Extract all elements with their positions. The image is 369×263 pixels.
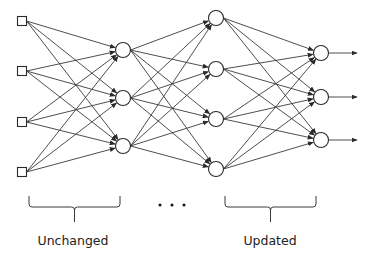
connection-edge — [131, 146, 209, 167]
output-node-circle — [314, 90, 329, 105]
hidden-1-node-circle — [116, 43, 131, 58]
input-node-square — [18, 17, 27, 26]
output-arrows — [329, 53, 358, 140]
hidden-1-node-circle — [116, 139, 131, 154]
connection-edge — [27, 21, 116, 48]
hidden-2-node-circle — [209, 162, 224, 177]
hidden-1-node-circle — [116, 91, 131, 106]
connection-edge — [131, 50, 210, 114]
ellipsis-dot — [171, 204, 174, 207]
ellipsis-dot — [183, 204, 186, 207]
connection-edge — [27, 21, 119, 140]
hidden-2-node-circle — [209, 112, 224, 127]
connection-edge — [27, 122, 116, 144]
unchanged-label: Unchanged — [37, 233, 108, 248]
connection-edge — [224, 18, 315, 92]
unchanged-brace — [29, 196, 120, 222]
connection-edge — [224, 142, 314, 169]
connection-edge — [224, 54, 314, 69]
input-node-square — [18, 67, 27, 76]
updated-brace — [225, 196, 316, 222]
connection-edge — [27, 55, 117, 122]
connection-edge — [131, 25, 212, 146]
connection-edge — [224, 69, 315, 135]
connection-edge — [27, 103, 117, 172]
hidden-2-node-circle — [209, 62, 224, 77]
connection-edge — [131, 50, 209, 67]
connection-edge — [27, 71, 117, 141]
input-node-square — [18, 168, 27, 177]
input-node-square — [18, 118, 27, 127]
connection-edges — [27, 18, 317, 172]
connection-edge — [27, 56, 119, 172]
group-braces — [29, 196, 316, 222]
connection-edge — [224, 69, 314, 95]
output-node-circle — [314, 133, 329, 148]
connection-edge — [131, 74, 211, 146]
connection-edge — [27, 71, 116, 96]
neural-network-diagram: Unchanged Updated — [0, 0, 369, 263]
connection-edge — [27, 21, 117, 93]
connection-edge — [131, 50, 212, 163]
connection-edge — [27, 148, 116, 172]
connection-edge — [27, 52, 116, 71]
output-node-circle — [314, 46, 329, 61]
connection-edge — [131, 72, 209, 98]
connection-edge — [224, 18, 314, 50]
updated-label: Updated — [243, 233, 296, 248]
ellipsis-dot — [159, 204, 162, 207]
hidden-2-node-circle — [209, 11, 224, 26]
ellipsis-dots — [159, 204, 186, 207]
